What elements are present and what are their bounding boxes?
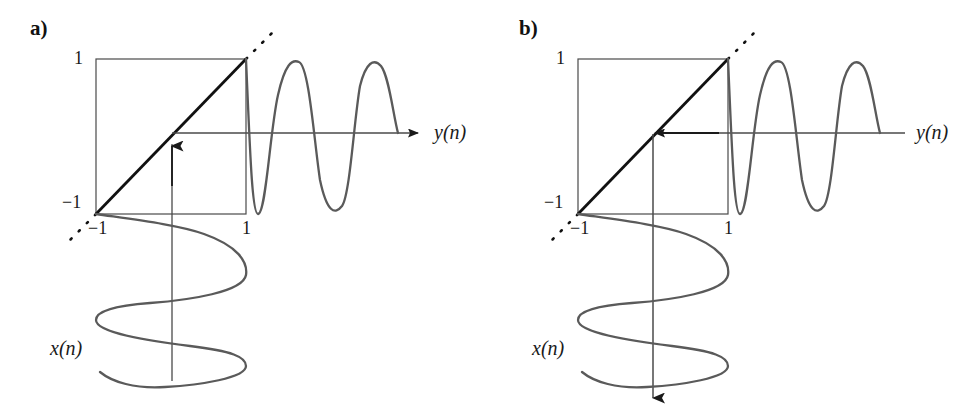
panel-a: a): [0, 0, 489, 415]
axis-label-b-yn: y(n): [916, 121, 948, 144]
axis-label-a-yn: y(n): [434, 121, 466, 144]
tick-label-a-x-right: 1: [242, 218, 251, 239]
tick-label-a-y-top: 1: [74, 48, 83, 69]
output-sinusoid-a: [246, 59, 398, 214]
identity-line-a: [96, 59, 246, 214]
output-sinusoid-b: [728, 59, 880, 214]
panel-b: b): [489, 0, 978, 415]
axis-label-b-xn: x(n): [532, 337, 564, 360]
input-sinusoid-a: [96, 214, 246, 387]
tick-label-b-y-bottom: −1: [544, 192, 563, 213]
figure-root: a): [0, 0, 978, 415]
tick-label-a-x-left: −1: [88, 218, 107, 239]
axis-label-a-xn: x(n): [50, 337, 82, 360]
tick-label-b-x-right: 1: [724, 218, 733, 239]
tick-label-a-y-bottom: −1: [62, 192, 81, 213]
tick-label-b-y-top: 1: [556, 48, 565, 69]
tick-label-b-x-left: −1: [570, 218, 589, 239]
